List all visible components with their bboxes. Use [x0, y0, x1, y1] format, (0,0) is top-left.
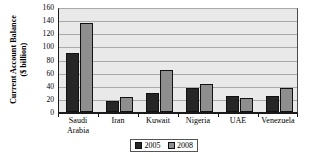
bars-layer [59, 9, 297, 112]
legend-item: 2005 [135, 142, 161, 150]
x-axis-category-label: Saudi Arabia [58, 116, 98, 135]
y-axis-title: Current Account Balance ($ billion) [0, 0, 36, 120]
bar [280, 88, 293, 112]
legend-swatch [168, 142, 175, 149]
legend-swatch [135, 142, 142, 149]
x-axis-category-label: Nigeria [178, 116, 218, 126]
bar [146, 93, 159, 112]
bar [266, 96, 279, 112]
bar [226, 96, 239, 112]
x-axis-category-label: Kuwait [138, 116, 178, 126]
bar-chart: Current Account Balance ($ billion) 0204… [0, 0, 320, 158]
y-axis-tick-label: 100 [43, 44, 54, 52]
bar [186, 88, 199, 112]
y-axis-tick-label: 140 [43, 17, 54, 25]
legend-label: 2005 [145, 142, 161, 150]
y-axis-tick-labels: 020406080100120140160 [36, 8, 55, 113]
y-axis-tick-label: 40 [46, 83, 54, 91]
bar [200, 84, 213, 112]
legend: 20052008 [130, 139, 198, 152]
bar [106, 101, 119, 112]
y-axis-tick-label: 60 [46, 70, 54, 78]
y-axis-title-line-1: Current Account Balance [8, 16, 17, 105]
y-axis-tick-label: 0 [50, 109, 54, 117]
y-axis-tick-label: 80 [46, 57, 54, 65]
x-axis-category-label: Venezuela [258, 116, 298, 126]
legend-item: 2008 [168, 142, 194, 150]
x-axis-category-label: Iran [98, 116, 138, 126]
bar [120, 97, 133, 112]
y-axis-title-line-2: ($ billion) [18, 43, 27, 77]
bar [160, 70, 173, 112]
plot-area [58, 8, 298, 113]
legend-label: 2008 [177, 142, 193, 150]
y-axis-tick-label: 120 [43, 30, 54, 38]
y-axis-tick-label: 160 [43, 4, 54, 12]
bar [80, 23, 93, 112]
y-axis-tick-label: 20 [46, 96, 54, 104]
bar [66, 53, 79, 112]
bar [240, 98, 253, 112]
x-axis-category-label: UAE [218, 116, 258, 126]
